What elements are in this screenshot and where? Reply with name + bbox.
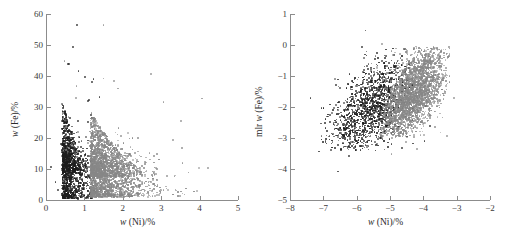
scatter-point (415, 131, 417, 133)
scatter-point (370, 91, 372, 93)
scatter-point (158, 159, 160, 161)
scatter-point (108, 193, 110, 195)
scatter-point (423, 100, 425, 102)
scatter-point (85, 160, 87, 162)
scatter-point (141, 176, 143, 178)
scatter-point (352, 113, 354, 115)
scatter-point-outlier (335, 84, 337, 86)
scatter-point (155, 173, 157, 175)
scatter-point (378, 94, 380, 96)
x-axis-title-right: w (Ni)/% (368, 217, 403, 227)
scatter-point (90, 196, 92, 198)
scatter-point (363, 57, 365, 59)
scatter-point (385, 82, 387, 84)
scatter-point (66, 160, 68, 162)
scatter-point (326, 130, 328, 132)
scatter-point (81, 167, 83, 169)
scatter-point (418, 101, 420, 103)
scatter-point (128, 163, 130, 165)
scatter-point (366, 55, 368, 57)
scatter-point (427, 101, 429, 103)
scatter-point (71, 188, 73, 190)
scatter-point (121, 181, 123, 183)
scatter-point (382, 127, 384, 129)
scatter-point (413, 115, 415, 117)
scatter-point (349, 112, 351, 114)
scatter-point (389, 138, 391, 140)
scatter-point (136, 178, 138, 180)
scatter-point (347, 98, 349, 100)
scatter-point (198, 167, 200, 169)
scatter-point (399, 84, 401, 86)
scatter-point (133, 173, 135, 175)
y-axis-title-left: w (Fe)/% (10, 102, 20, 137)
scatter-point (354, 142, 356, 144)
scatter-point (76, 191, 78, 193)
scatter-point (392, 73, 394, 75)
scatter-point (144, 163, 146, 165)
scatter-point (87, 162, 89, 164)
scatter-point (378, 129, 380, 131)
scatter-point (166, 175, 168, 177)
scatter-point (443, 49, 445, 51)
x-ticklabel-right-4: −4 (413, 204, 433, 213)
scatter-point (99, 161, 101, 163)
scatter-point (449, 81, 451, 83)
scatter-point (73, 133, 75, 135)
y-ticklabel-left-5: 50 (19, 41, 43, 50)
scatter-point (407, 54, 409, 56)
scatter-point (379, 75, 381, 77)
x-axis-line-left (46, 200, 238, 201)
scatter-point (385, 70, 387, 72)
scatter-point-outlier (103, 24, 105, 26)
scatter-point (64, 174, 66, 176)
scatter-point (112, 178, 114, 180)
scatter-point (113, 158, 115, 160)
scatter-point (77, 189, 79, 191)
scatter-point (345, 109, 347, 111)
scatter-point (355, 85, 357, 87)
scatter-point (108, 162, 110, 164)
y-ticklabel-right-3: −2 (263, 103, 287, 112)
scatter-point (365, 132, 367, 134)
scatter-point-outlier (76, 85, 78, 87)
scatter-point (356, 84, 358, 86)
scatter-point (86, 148, 88, 150)
scatter-point (132, 167, 134, 169)
scatter-point (105, 159, 107, 161)
scatter-point (447, 56, 449, 58)
scatter-point (139, 169, 141, 171)
scatter-point (338, 86, 340, 88)
scatter-point (426, 66, 428, 68)
scatter-point (96, 122, 98, 124)
scatter-point (329, 139, 331, 141)
x-ticklabel-right-3: −5 (380, 204, 400, 213)
scatter-point (101, 149, 103, 151)
scatter-point (405, 109, 407, 111)
scatter-point (444, 92, 446, 94)
scatter-point (321, 135, 323, 137)
scatter-point (349, 73, 351, 75)
scatter-point (410, 117, 412, 119)
scatter-point (434, 79, 436, 81)
scatter-point (109, 178, 111, 180)
scatter-point (333, 136, 335, 138)
scatter-point (77, 153, 79, 155)
x-ticklabel-right-2: −6 (347, 204, 367, 213)
scatter-point (364, 121, 366, 123)
scatter-point (64, 111, 66, 113)
scatter-point (67, 158, 69, 160)
scatter-point (409, 121, 411, 123)
scatter-point (101, 184, 103, 186)
scatter-point (144, 175, 146, 177)
scatter-point (130, 190, 132, 192)
scatter-point (379, 102, 381, 104)
scatter-point (402, 136, 404, 138)
scatter-point (68, 185, 70, 187)
scatter-point (326, 143, 328, 145)
x-tick-left-2 (123, 196, 124, 200)
scatter-point (434, 101, 436, 103)
scatter-point (112, 145, 114, 147)
scatter-point (433, 46, 435, 48)
scatter-point (117, 140, 119, 142)
